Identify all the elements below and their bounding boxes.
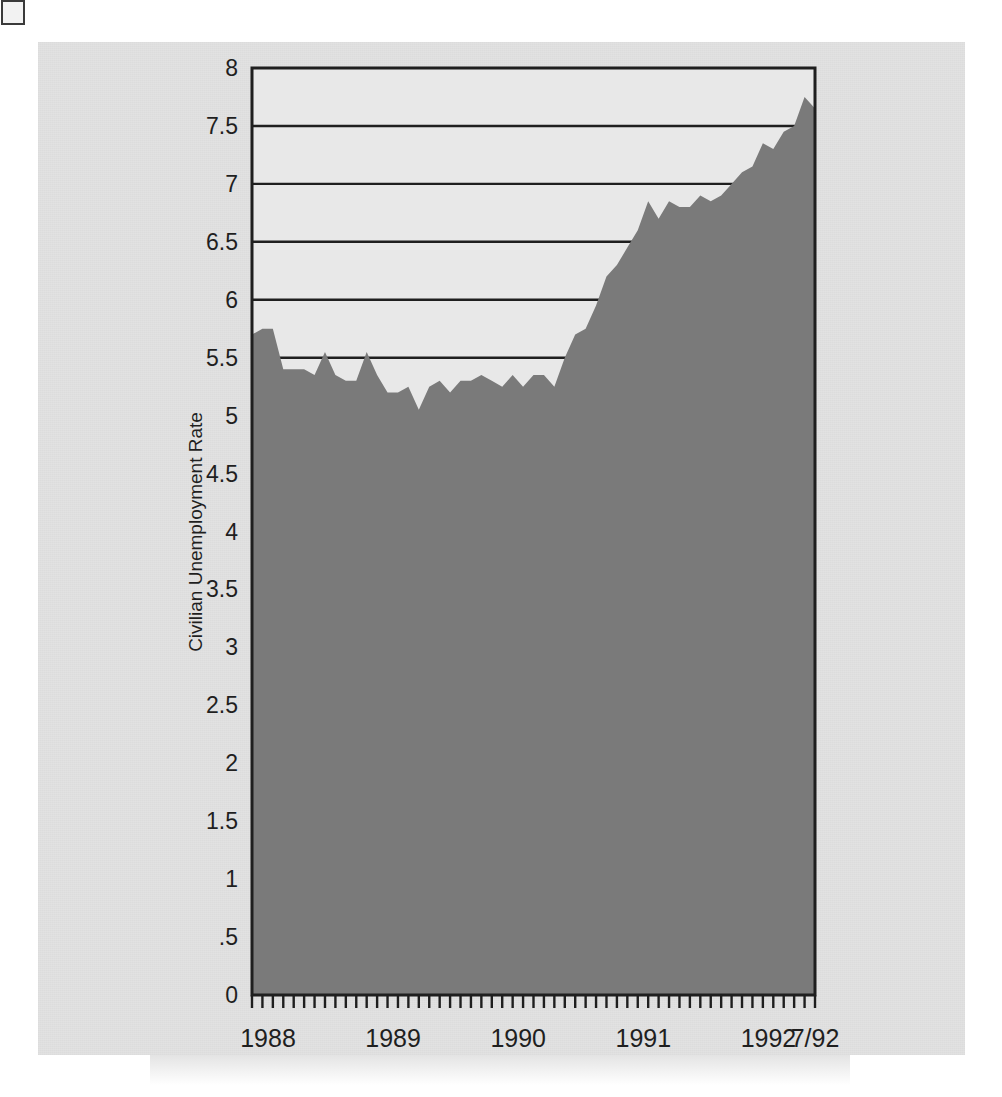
x-tick-label: 1992 [741, 1024, 797, 1052]
y-axis-title: Civilian Unemployment Rate [185, 412, 206, 652]
y-tick-label: 4 [225, 519, 238, 545]
scan-corner-artifact [1, 0, 25, 25]
y-tick-label: 0 [225, 982, 238, 1008]
y-tick-label: 2.5 [206, 692, 238, 718]
y-tick-label: 5 [225, 403, 238, 429]
x-tick-label: 1988 [240, 1024, 296, 1052]
y-tick-label: 4.5 [206, 461, 238, 487]
y-tick-label: 2 [225, 750, 238, 776]
unemployment-area-chart: 0.511.522.533.544.555.566.577.58 1988198… [38, 42, 965, 1055]
x-tick-label: 1990 [490, 1024, 546, 1052]
scan-smudge [150, 1055, 850, 1085]
x-tick-label: 7/92 [791, 1024, 840, 1052]
x-minor-ticks [252, 995, 815, 1008]
y-tick-label: 7.5 [206, 113, 238, 139]
y-tick-label: 3.5 [206, 576, 238, 602]
y-tick-label: 8 [225, 55, 238, 81]
x-tick-label: 1991 [616, 1024, 672, 1052]
y-tick-label: 6 [225, 287, 238, 313]
y-tick-label: 1 [225, 866, 238, 892]
y-tick-label: 6.5 [206, 229, 238, 255]
y-axis-tick-labels: 0.511.522.533.544.555.566.577.58 [206, 55, 238, 1008]
x-axis-tick-labels: 198819891990199119927/92 [240, 1024, 839, 1052]
y-tick-label: 7 [225, 171, 238, 197]
y-tick-label: .5 [219, 924, 238, 950]
y-tick-label: 3 [225, 634, 238, 660]
x-tick-label: 1989 [365, 1024, 421, 1052]
y-tick-label: 1.5 [206, 808, 238, 834]
figure-panel: 0.511.522.533.544.555.566.577.58 1988198… [38, 42, 965, 1055]
y-tick-label: 5.5 [206, 345, 238, 371]
